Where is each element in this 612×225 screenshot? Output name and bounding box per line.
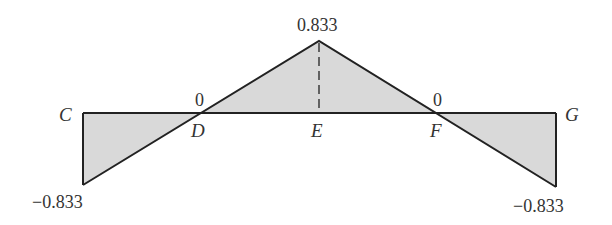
diagram-svg: C D E F G 0.833 0 0 −0.833 −0.833	[0, 0, 612, 225]
point-label-d: D	[190, 120, 205, 141]
value-label-zero-left: 0	[195, 90, 204, 110]
influence-line-diagram: C D E F G 0.833 0 0 −0.833 −0.833	[0, 0, 612, 225]
value-label-left-end: −0.833	[32, 192, 83, 212]
point-label-e: E	[310, 120, 323, 141]
value-label-zero-right: 0	[433, 90, 442, 110]
point-label-c: C	[59, 104, 72, 125]
point-label-f: F	[429, 120, 442, 141]
value-label-right-end: −0.833	[513, 196, 564, 216]
point-label-g: G	[565, 104, 579, 125]
value-label-peak: 0.833	[297, 15, 338, 35]
